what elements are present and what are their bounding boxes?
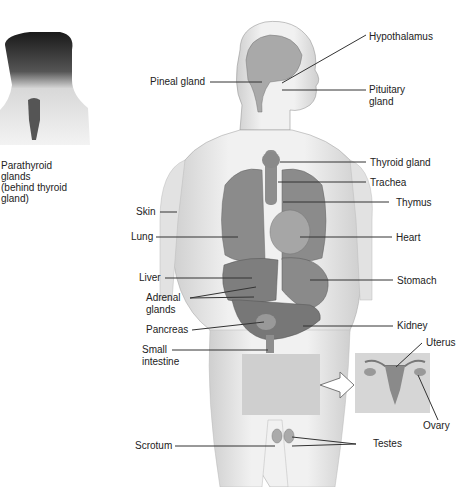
scrotum-label: Scrotum	[135, 440, 172, 452]
small-intestine-label: Small intestine	[142, 344, 179, 368]
testes-label: Testes	[373, 438, 402, 450]
pancreas-label: Pancreas	[146, 324, 188, 336]
uterus-label: Uterus	[426, 337, 455, 349]
thymus-label: Thymus	[396, 197, 432, 209]
skin-label: Skin	[136, 206, 155, 218]
adrenal-glands-label: Adrenal glands	[146, 292, 180, 316]
label-line: glands	[146, 304, 180, 316]
pineal-gland-label: Pineal gland	[150, 76, 205, 88]
parathyroid-inset-image	[0, 32, 90, 145]
body-silhouette	[160, 21, 372, 487]
caption-line: glands	[1, 171, 67, 182]
uterus-inset-image	[355, 353, 430, 413]
trachea-label: Trachea	[370, 177, 406, 189]
pituitary-gland-label: Pituitary gland	[369, 84, 405, 108]
hypothalamus-label: Hypothalamus	[369, 31, 433, 43]
label-line: intestine	[142, 356, 179, 368]
thyroid-gland-label: Thyroid gland	[370, 157, 431, 169]
pelvic-overlay	[242, 354, 320, 415]
parathyroid-label: Parathyroid glands (behind thyroid gland…	[1, 160, 67, 204]
heart-label: Heart	[396, 232, 420, 244]
ovary-label: Ovary	[423, 420, 450, 432]
liver-label: Liver	[139, 272, 161, 284]
stomach-label: Stomach	[397, 275, 436, 287]
label-line: Adrenal	[146, 292, 180, 304]
kidney-label: Kidney	[397, 320, 428, 332]
label-line: Pituitary	[369, 84, 405, 96]
lung-label: Lung	[131, 231, 153, 243]
caption-line: Parathyroid	[1, 160, 67, 171]
caption-line: gland)	[1, 193, 67, 204]
label-line: Small	[142, 344, 179, 356]
label-line: gland	[369, 96, 405, 108]
caption-line: (behind thyroid	[1, 182, 67, 193]
